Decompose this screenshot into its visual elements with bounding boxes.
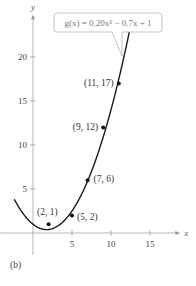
quadratic-model-chart: xy510155101520 (2, 1)(5, 2)(7, 6)(9, 12)… bbox=[0, 0, 196, 286]
data-point-label: (5, 2) bbox=[77, 212, 98, 223]
data-points: (2, 1)(5, 2)(7, 6)(9, 12)(11, 17) bbox=[37, 78, 121, 226]
y-axis-label: y bbox=[30, 2, 35, 12]
y-tick-label: 5 bbox=[23, 184, 28, 194]
x-axis-arrow-icon bbox=[175, 231, 180, 235]
data-point-label: (11, 17) bbox=[84, 78, 114, 89]
data-point bbox=[70, 213, 74, 217]
y-tick-label: 10 bbox=[18, 140, 28, 150]
data-point bbox=[47, 222, 51, 226]
function-label: g(x) = 0.20x² − 0.7x + 1 bbox=[65, 18, 152, 28]
x-tick-label: 15 bbox=[146, 239, 156, 249]
y-axis-arrow-icon bbox=[31, 14, 35, 19]
function-callout: g(x) = 0.20x² − 0.7x + 1 bbox=[54, 13, 162, 56]
data-point-label: (7, 6) bbox=[94, 174, 115, 185]
y-tick-label: 15 bbox=[18, 96, 28, 106]
data-point bbox=[117, 81, 121, 85]
data-point bbox=[86, 178, 90, 182]
data-point bbox=[101, 125, 105, 129]
y-tick-label: 20 bbox=[18, 52, 28, 62]
x-axis-label: x bbox=[183, 228, 188, 238]
x-tick-label: 5 bbox=[70, 239, 75, 249]
panel-label: (b) bbox=[10, 260, 21, 270]
data-point-label: (9, 12) bbox=[73, 122, 98, 133]
data-point-label: (2, 1) bbox=[37, 207, 58, 218]
x-tick-label: 10 bbox=[107, 239, 117, 249]
